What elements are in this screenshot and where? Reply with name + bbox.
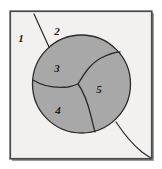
- region-label-5: 5: [96, 83, 102, 95]
- region-label-2: 2: [53, 25, 60, 37]
- region-label-3: 3: [53, 62, 60, 74]
- partition-diagram: 1 2 3 4 5: [0, 0, 162, 169]
- region-label-1: 1: [18, 32, 24, 44]
- region-label-4: 4: [54, 104, 61, 116]
- disk-shape: [33, 35, 131, 133]
- figure-container: 1 2 3 4 5: [0, 0, 162, 169]
